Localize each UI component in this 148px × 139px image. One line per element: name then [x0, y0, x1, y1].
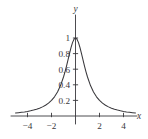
y-tick-label: 0.4: [59, 80, 71, 90]
y-tick-label: 0.8: [59, 49, 71, 59]
y-axis-label: y: [72, 4, 78, 14]
function-plot: −4−224 0.20.40.60.81 x y: [0, 0, 148, 139]
x-tick-label: −4: [23, 121, 33, 131]
chart-figure: −4−224 0.20.40.60.81 x y: [0, 0, 148, 139]
x-tick-label: 4: [121, 121, 126, 131]
y-tick-label: 0.6: [59, 65, 71, 75]
x-axis-label: x: [136, 111, 142, 121]
x-tick-label: −2: [47, 121, 57, 131]
x-tick-label: 2: [97, 121, 102, 131]
y-tick-label: 1: [65, 33, 70, 43]
y-tick-label: 0.2: [59, 96, 71, 106]
